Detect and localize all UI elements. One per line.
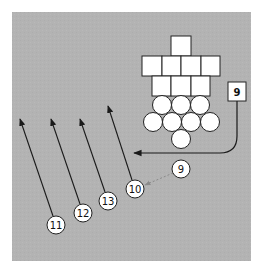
- formation-circle: [144, 113, 163, 132]
- player-9: 9: [172, 160, 190, 178]
- player-label: 13: [102, 196, 115, 207]
- formation-square: [201, 56, 220, 76]
- play-diagram: 9 9 10 13 12 11: [0, 0, 265, 272]
- player-13: 13: [99, 192, 117, 210]
- formation-square: [171, 36, 191, 56]
- formation-square: [171, 76, 191, 96]
- box-player-label: 9: [234, 87, 241, 98]
- formation-square: [142, 56, 162, 76]
- formation-circle: [201, 113, 220, 132]
- player-label: 10: [129, 184, 142, 195]
- player-label: 12: [77, 208, 90, 219]
- formation-circle: [191, 96, 210, 115]
- formation-square: [162, 56, 181, 76]
- formation-circle: [172, 96, 191, 115]
- formation-circle: [172, 130, 191, 149]
- player-label: 9: [178, 164, 184, 175]
- formation-square: [191, 76, 210, 96]
- box-player-9: 9: [228, 82, 246, 101]
- formation-circle: [163, 113, 182, 132]
- formation-circle: [182, 113, 201, 132]
- player-12: 12: [74, 204, 92, 222]
- formation-circle: [153, 96, 172, 115]
- player-10: 10: [126, 180, 144, 198]
- formation-square: [152, 76, 171, 96]
- formation-square: [181, 56, 201, 76]
- player-11: 11: [47, 216, 65, 234]
- player-label: 11: [50, 220, 63, 231]
